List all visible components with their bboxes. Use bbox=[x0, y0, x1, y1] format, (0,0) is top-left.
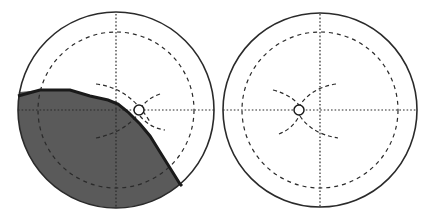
fixation-target-icon bbox=[294, 105, 304, 115]
shaded-region bbox=[0, 90, 200, 219]
dashed-arc-upper bbox=[273, 84, 336, 112]
figure: Two circular visual-field style diagrams… bbox=[0, 0, 432, 219]
right-diagram bbox=[223, 13, 417, 207]
dashed-arc-lower bbox=[279, 114, 338, 138]
left-diagram bbox=[0, 12, 214, 219]
fixation-target-icon bbox=[134, 105, 144, 115]
